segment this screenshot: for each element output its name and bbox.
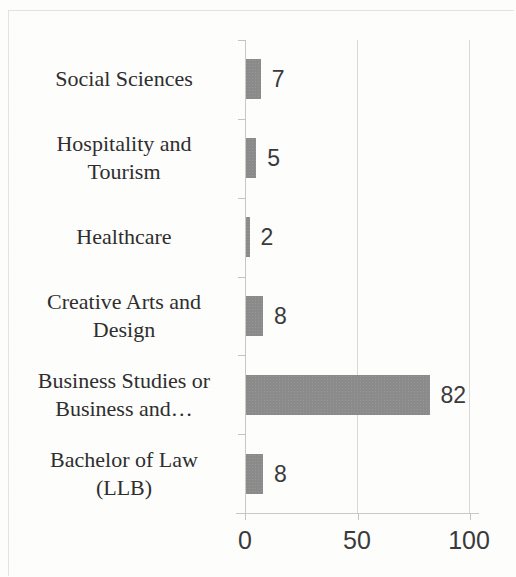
category-label-line: Healthcare <box>10 223 238 251</box>
bar-row: 82 <box>245 355 470 434</box>
category-label-slot: Creative Arts andDesign <box>10 277 238 356</box>
category-label-line: Creative Arts and <box>10 288 238 316</box>
category-label: Healthcare <box>10 223 238 251</box>
x-axis-tick <box>245 513 246 520</box>
bar <box>245 59 261 99</box>
category-tick <box>238 434 246 435</box>
bar-row: 8 <box>245 277 470 356</box>
bar-value-label: 82 <box>441 381 467 408</box>
category-label-line: Business Studies or <box>10 367 238 395</box>
bar-value-label: 2 <box>261 224 274 251</box>
bar-row: 2 <box>245 198 470 277</box>
category-label-line: Business and… <box>10 395 238 423</box>
x-tick-label-50: 50 <box>343 526 371 555</box>
category-tick <box>238 198 246 199</box>
category-label-slot: Hospitality andTourism <box>10 119 238 198</box>
category-tick <box>238 277 246 278</box>
category-label: Bachelor of Law(LLB) <box>10 446 238 502</box>
category-label: Social Sciences <box>10 65 238 93</box>
bar-value-label: 7 <box>272 66 285 93</box>
bar-value-label: 5 <box>267 145 280 172</box>
category-label-slot: Business Studies orBusiness and… <box>10 355 238 434</box>
bar-row: 7 <box>245 40 470 119</box>
category-label-line: Design <box>10 316 238 344</box>
x-axis-tick <box>470 513 471 520</box>
bar-value-label: 8 <box>274 460 287 487</box>
category-label-line: Tourism <box>10 158 238 186</box>
category-label: Hospitality andTourism <box>10 130 238 186</box>
bar-row: 8 <box>245 434 470 513</box>
x-axis-tick <box>358 513 359 520</box>
category-tick <box>238 40 246 41</box>
category-tick <box>238 355 246 356</box>
plot-area: 7528828 <box>245 40 470 513</box>
x-tick-label-100: 100 <box>448 526 490 555</box>
bar <box>245 138 256 178</box>
x-tick-label-0: 0 <box>238 526 252 555</box>
bar-row: 5 <box>245 119 470 198</box>
category-label: Creative Arts andDesign <box>10 288 238 344</box>
bar-chart: 7528828 Social SciencesHospitality andTo… <box>0 0 516 577</box>
category-label-slot: Bachelor of Law(LLB) <box>10 434 238 513</box>
category-tick <box>238 119 246 120</box>
category-label-slot: Healthcare <box>10 198 238 277</box>
bar-value-label: 8 <box>274 302 287 329</box>
category-label-line: Hospitality and <box>10 130 238 158</box>
category-label-line: (LLB) <box>10 474 238 502</box>
bar <box>245 296 263 336</box>
category-label-line: Social Sciences <box>10 65 238 93</box>
category-label: Business Studies orBusiness and… <box>10 367 238 423</box>
category-label-line: Bachelor of Law <box>10 446 238 474</box>
category-label-slot: Social Sciences <box>10 40 238 119</box>
bar <box>245 454 263 494</box>
bar <box>245 375 430 415</box>
